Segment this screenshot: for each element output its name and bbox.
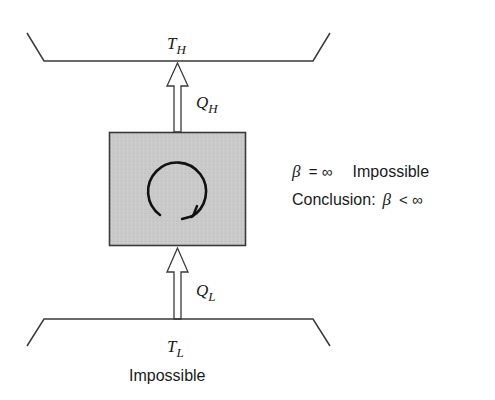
cold-reservoir-label: TL	[167, 337, 184, 360]
cold-reservoir-caption: Impossible	[129, 367, 206, 384]
cop-annotation: β = ∞ Impossible Conclusion: β < ∞	[291, 162, 429, 209]
annotation-line-1: β = ∞ Impossible	[291, 162, 429, 181]
refrigerator-box	[110, 133, 246, 246]
hot-reservoir-label: TH	[167, 34, 186, 57]
annotation-line-2: Conclusion: β < ∞	[292, 190, 423, 209]
heat-in-label: QL	[196, 281, 216, 304]
cold-reservoir	[27, 319, 330, 346]
refrigerator-diagram: TH QH QL TL Impossible β = ∞ Impossible …	[0, 0, 495, 400]
heat-out-arrow	[167, 63, 188, 132]
heat-out-label: QH	[196, 93, 218, 116]
heat-in-arrow	[167, 248, 188, 319]
